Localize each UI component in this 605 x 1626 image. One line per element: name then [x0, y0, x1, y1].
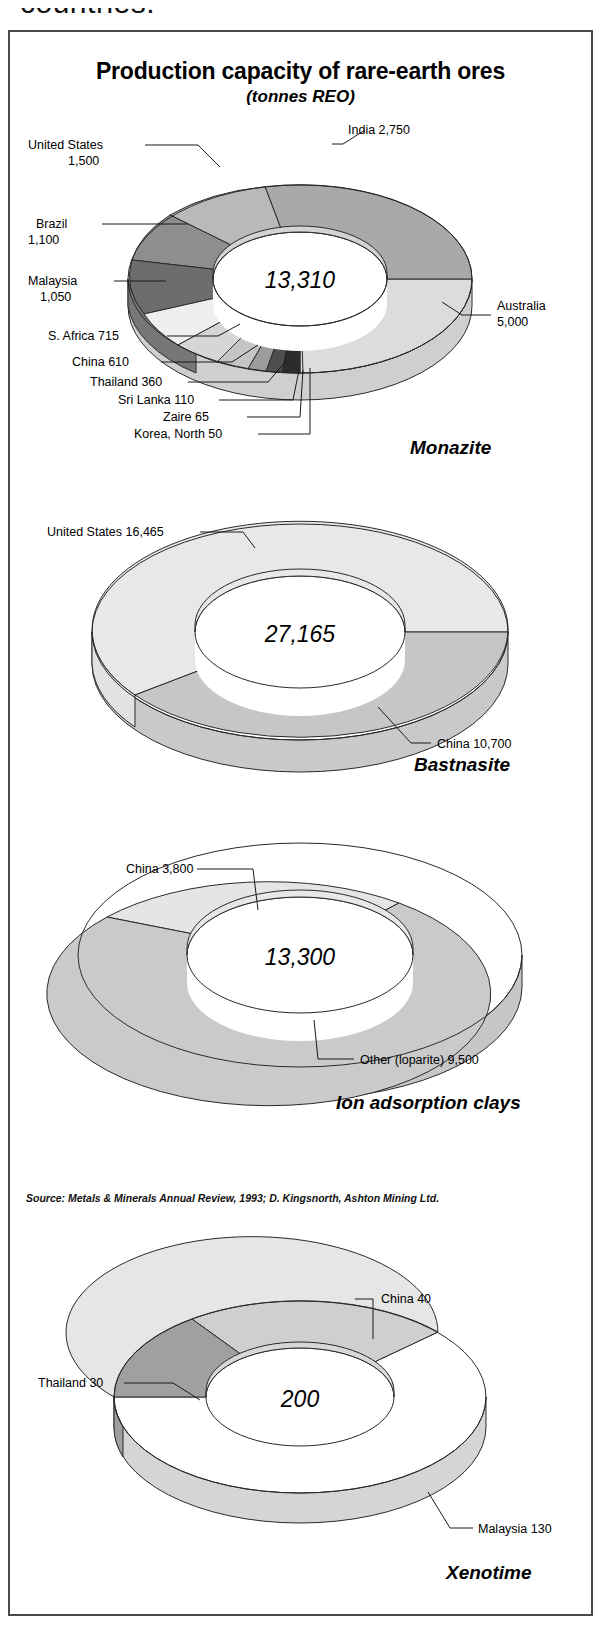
- ore-name-bastnasite: Bastnasite: [414, 754, 510, 776]
- leader-united-states: [145, 145, 220, 167]
- label-zaire: Zaire 65: [163, 410, 209, 424]
- clay-center-value: 13,300: [265, 944, 336, 970]
- label-united-states-2: 1,500: [68, 154, 99, 168]
- label-india: India 2,750: [348, 123, 410, 137]
- ore-name-ion-adsorption-clays: Ion adsorption clays: [336, 1092, 521, 1114]
- label-united-states-1: United States: [28, 138, 103, 152]
- label-clay-china: China 3,800: [126, 862, 193, 876]
- chart-ion-adsorption-clays: 13,300 China 3,800 Other (loparite) 9,50…: [10, 807, 591, 1097]
- label-xeno-thailand: Thailand 30: [38, 1376, 103, 1390]
- label-thailand: Thailand 360: [90, 375, 162, 389]
- chart-xenotime: 200 China 40 Thailand 30 Malaysia 130: [10, 1252, 591, 1552]
- xenotime-center-value: 200: [280, 1386, 320, 1412]
- label-xeno-china: China 40: [381, 1292, 431, 1306]
- label-malaysia-1: Malaysia: [28, 274, 77, 288]
- chart-monazite: 13,310 India 2,750 United States 1,500 B…: [10, 114, 591, 444]
- label-brazil-1: Brazil: [36, 217, 67, 231]
- label-brazil-2: 1,100: [28, 233, 59, 247]
- figure-frame: Production capacity of rare-earth ores (…: [8, 30, 593, 1616]
- label-bast-united-states: United States 16,465: [47, 525, 164, 539]
- bastnasite-center-value: 27,165: [264, 621, 336, 647]
- label-australia-1: Australia: [497, 299, 546, 313]
- label-sri-lanka: Sri Lanka 110: [118, 393, 194, 407]
- ore-name-xenotime: Xenotime: [446, 1562, 532, 1584]
- figure-title: Production capacity of rare-earth ores: [10, 58, 591, 85]
- leader-xeno-malaysia: [428, 1492, 473, 1528]
- figure-subtitle: (tonnes REO): [10, 87, 591, 107]
- source-note: Source: Metals & Minerals Annual Review,…: [26, 1192, 439, 1204]
- label-china: China 610: [72, 355, 129, 369]
- label-australia-2: 5,000: [497, 315, 528, 329]
- ore-name-monazite: Monazite: [410, 437, 491, 459]
- cut-off-body-text: countries.: [20, 0, 155, 20]
- label-s-africa: S. Africa 715: [48, 329, 119, 343]
- monazite-center-value: 13,310: [265, 267, 336, 293]
- label-xeno-malaysia: Malaysia 130: [478, 1522, 552, 1536]
- label-korea-north: Korea, North 50: [134, 427, 222, 441]
- label-clay-other: Other (loparite) 9,500: [360, 1053, 479, 1067]
- label-malaysia-2: 1,050: [40, 290, 71, 304]
- label-bast-china: China 10,700: [437, 737, 511, 751]
- chart-bastnasite: 27,165 United States 16,465 China 10,700: [10, 492, 591, 757]
